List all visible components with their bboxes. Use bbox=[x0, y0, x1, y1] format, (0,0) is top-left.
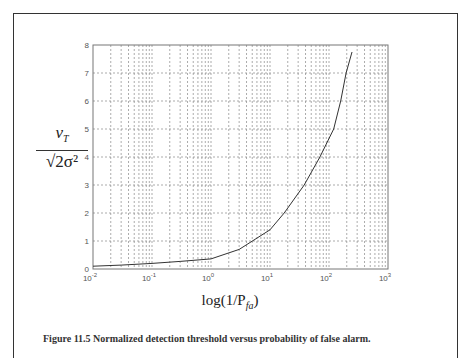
grid-lines bbox=[93, 45, 388, 269]
x-tick-label: 100 bbox=[202, 272, 215, 283]
x-axis-label: log(1/Pfa) bbox=[180, 292, 280, 311]
y-axis-label-numerator: vT bbox=[36, 125, 88, 147]
x-tick-label: 103 bbox=[379, 272, 392, 283]
figure-caption: Figure 11.5 Normalized detection thresho… bbox=[43, 333, 370, 344]
y-tick-label: 7 bbox=[85, 69, 90, 78]
threshold-curve bbox=[93, 52, 352, 266]
y-tick-label: 1 bbox=[85, 237, 90, 246]
y-axis-label-denominator: √2σ² bbox=[36, 153, 88, 171]
x-tick-label: 102 bbox=[320, 272, 333, 283]
x-tick-label: 10-1 bbox=[142, 272, 157, 283]
y-label-sub: T bbox=[63, 133, 69, 144]
y-tick-label: 0 bbox=[85, 265, 90, 274]
x-tick-label: 10-2 bbox=[83, 272, 98, 283]
x-tick-label: 101 bbox=[261, 272, 274, 283]
fraction-bar bbox=[36, 150, 88, 151]
y-tick-label: 2 bbox=[85, 209, 90, 218]
y-tick-label: 3 bbox=[85, 181, 90, 190]
y-label-v: v bbox=[55, 123, 63, 142]
x-label-text: log(1/P bbox=[202, 292, 246, 308]
y-tick-label: 6 bbox=[85, 97, 90, 106]
y-tick-label: 8 bbox=[85, 41, 90, 50]
x-label-close: ) bbox=[253, 292, 258, 308]
y-axis-label: vT √2σ² bbox=[36, 125, 88, 171]
